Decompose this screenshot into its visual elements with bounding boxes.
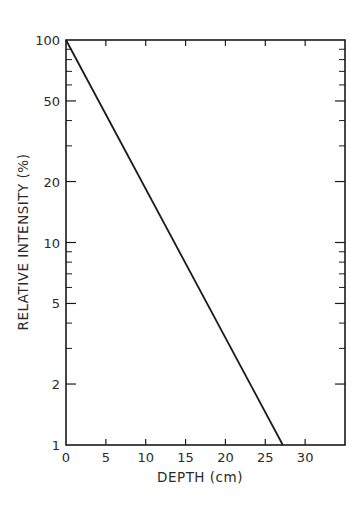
x-tick-label: 30 [297,450,314,465]
x-tick-label: 15 [177,450,194,465]
y-axis-title: RELATIVE INTENSITY (%) [15,154,31,331]
x-tick-label: 0 [62,450,70,465]
y-tick-label: 2 [52,377,60,392]
data-line [66,40,283,445]
y-tick-label: 20 [43,175,60,190]
y-tick-label: 10 [43,236,60,251]
plot-area: 051015202530125102050100 [35,33,345,465]
plot-frame [66,40,345,445]
y-tick-label: 100 [35,33,60,48]
x-tick-label: 25 [257,450,274,465]
y-tick-label: 5 [52,296,60,311]
x-axis-title: DEPTH (cm) [157,469,243,485]
chart: 051015202530125102050100 RELATIVE INTENS… [0,0,363,513]
x-tick-label: 10 [137,450,154,465]
x-tick-label: 5 [102,450,110,465]
x-tick-label: 20 [217,450,234,465]
y-tick-label: 1 [52,438,60,453]
y-tick-label: 50 [43,94,60,109]
